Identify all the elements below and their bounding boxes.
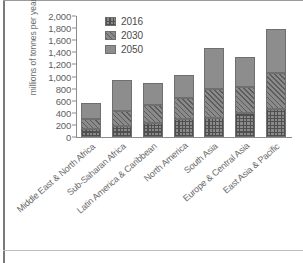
legend-label-2050: 2050 bbox=[121, 44, 143, 55]
bar-4 bbox=[174, 16, 194, 137]
chart-figure: millions of tonnes per year 020040060080… bbox=[0, 0, 303, 263]
figure-top-border bbox=[3, 0, 303, 1]
figure-left-border bbox=[3, 0, 5, 263]
y-tick-mark bbox=[72, 64, 76, 65]
legend-item-2030: 2030 bbox=[105, 29, 143, 42]
bar-segment-2016 bbox=[204, 118, 224, 137]
bar-segment-2050 bbox=[235, 57, 255, 87]
y-tick-mark bbox=[72, 112, 76, 113]
x-axis-label-3: Latin America & Caribbean bbox=[75, 141, 159, 216]
y-tick-mark bbox=[72, 76, 76, 77]
x-axis-label-5: South Asia bbox=[182, 141, 220, 175]
bar-segment-2030 bbox=[174, 98, 194, 119]
bar-segment-2016 bbox=[266, 109, 286, 137]
figure-bottom-border bbox=[3, 250, 303, 251]
bar-segment-2050 bbox=[174, 75, 194, 98]
legend-label-2030: 2030 bbox=[121, 30, 143, 41]
bar-segment-2016 bbox=[81, 129, 101, 137]
bar-segment-2030 bbox=[235, 87, 255, 113]
legend-swatch-2030 bbox=[105, 31, 116, 40]
x-axis-label-6: Europe & Central Asia bbox=[181, 141, 251, 204]
bar-segment-2050 bbox=[266, 29, 286, 73]
legend-swatch-2016 bbox=[105, 17, 116, 26]
y-tick-mark bbox=[72, 40, 76, 41]
x-axis-label-1: Middle East & North Africa bbox=[15, 141, 97, 214]
y-tick-mark bbox=[72, 52, 76, 53]
bar-segment-2016 bbox=[112, 126, 132, 137]
legend-item-2050: 2050 bbox=[105, 43, 143, 56]
legend-swatch-2050 bbox=[105, 45, 116, 54]
legend-label-2016: 2016 bbox=[121, 16, 143, 27]
bar-segment-2030 bbox=[112, 111, 132, 126]
bar-segment-2050 bbox=[112, 80, 132, 111]
bar-segment-2030 bbox=[81, 119, 101, 129]
bar-segment-2030 bbox=[143, 105, 163, 124]
bar-segment-2016 bbox=[235, 113, 255, 137]
bar-1 bbox=[81, 16, 101, 137]
y-tick-mark bbox=[72, 88, 76, 89]
bar-segment-2030 bbox=[266, 73, 286, 108]
chart-legend: 201620302050 bbox=[105, 15, 143, 57]
x-axis-label-7: East Asia & Pacific bbox=[221, 141, 281, 195]
y-axis-title: millions of tonnes per year bbox=[28, 0, 38, 107]
bar-3 bbox=[143, 16, 163, 137]
bar-segment-2050 bbox=[204, 48, 224, 89]
bar-6 bbox=[235, 16, 255, 137]
bar-segment-2016 bbox=[143, 123, 163, 137]
bar-7 bbox=[266, 16, 286, 137]
y-tick-mark bbox=[72, 100, 76, 101]
bar-segment-2030 bbox=[204, 89, 224, 118]
y-tick-mark bbox=[72, 16, 76, 17]
x-axis-label-4: North America bbox=[142, 141, 190, 184]
x-axis-line bbox=[76, 137, 292, 138]
legend-item-2016: 2016 bbox=[105, 15, 143, 28]
y-tick-mark bbox=[72, 124, 76, 125]
x-axis-label-2: Sub-Saharan Africa bbox=[65, 141, 128, 197]
bar-5 bbox=[204, 16, 224, 137]
bar-segment-2050 bbox=[81, 103, 101, 119]
bar-segment-2050 bbox=[143, 83, 163, 104]
y-tick-mark bbox=[72, 28, 76, 29]
y-tick-mark bbox=[72, 137, 76, 138]
bar-segment-2016 bbox=[174, 119, 194, 137]
